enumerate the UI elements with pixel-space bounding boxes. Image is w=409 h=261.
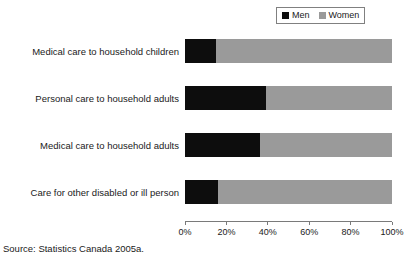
category-label: Care for other disabled or ill person bbox=[1, 187, 179, 198]
legend-entry-men: Men bbox=[282, 11, 310, 20]
x-axis-tick bbox=[392, 222, 393, 225]
legend-label-men: Men bbox=[292, 11, 310, 20]
stacked-bar-chart-figure: Men Women Medical care to household chil… bbox=[0, 0, 409, 261]
legend-swatch-women-icon bbox=[319, 12, 326, 19]
bar-row bbox=[185, 39, 392, 63]
x-axis-tick-label: 0% bbox=[178, 227, 191, 238]
legend-swatch-men-icon bbox=[282, 12, 289, 19]
x-axis-tick bbox=[226, 222, 227, 225]
bar-segment-men bbox=[185, 180, 218, 204]
x-axis-tick-label: 80% bbox=[342, 227, 360, 238]
bar-segment-women bbox=[266, 86, 392, 110]
x-axis-tick bbox=[350, 222, 351, 225]
category-label: Medical care to household children bbox=[1, 46, 179, 57]
bar-segment-men bbox=[185, 86, 266, 110]
bar-segment-men bbox=[185, 39, 216, 63]
x-axis-tick bbox=[309, 222, 310, 225]
bar-segment-women bbox=[218, 180, 392, 204]
x-axis-line bbox=[185, 221, 392, 222]
x-axis-tick bbox=[267, 222, 268, 225]
source-note: Source: Statistics Canada 2005a. bbox=[3, 243, 144, 255]
plot-area bbox=[185, 39, 392, 222]
x-axis-tick-label: 60% bbox=[300, 227, 318, 238]
category-label: Medical care to household adults bbox=[1, 140, 179, 151]
bar-row bbox=[185, 133, 392, 157]
x-axis-tick-label: 100% bbox=[380, 227, 403, 238]
x-axis-tick bbox=[185, 222, 186, 225]
bar-segment-men bbox=[185, 133, 260, 157]
x-axis-tick-labels: 0%20%40%60%80%100% bbox=[185, 227, 392, 239]
bar-segment-women bbox=[260, 133, 392, 157]
legend-label-women: Women bbox=[329, 11, 360, 20]
category-label: Personal care to household adults bbox=[1, 93, 179, 104]
bar-segment-women bbox=[216, 39, 392, 63]
legend-entry-women: Women bbox=[319, 11, 360, 20]
category-axis-labels: Medical care to household children Perso… bbox=[0, 39, 179, 222]
x-axis-tick-label: 20% bbox=[217, 227, 235, 238]
bar-row bbox=[185, 86, 392, 110]
bar-row bbox=[185, 180, 392, 204]
chart-legend: Men Women bbox=[276, 7, 365, 24]
x-axis-tick-label: 40% bbox=[259, 227, 277, 238]
